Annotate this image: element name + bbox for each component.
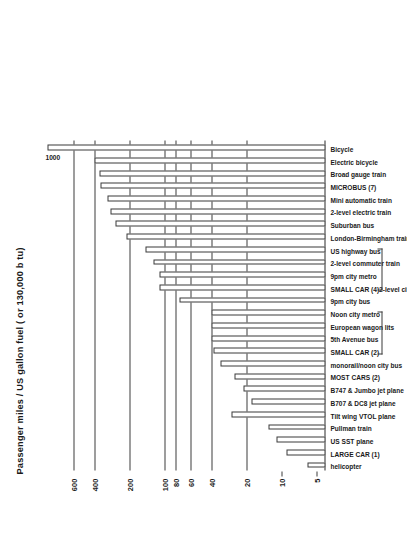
bar[interactable] — [251, 398, 325, 404]
category-label: Suburban bus — [330, 221, 374, 228]
axis-tick-label-80: 80 — [171, 478, 180, 504]
bar[interactable] — [211, 309, 325, 315]
category-label: 9pm city metro — [330, 272, 376, 279]
category-label: Mini automatic train — [330, 196, 391, 203]
bar[interactable] — [211, 335, 325, 341]
bar[interactable] — [220, 360, 325, 366]
category-label: US highway bus — [330, 247, 380, 254]
y-axis-title: Passenger miles / US gallon fuel ( or 13… — [14, 247, 24, 474]
axis-tick-label-200: 200 — [125, 478, 134, 504]
bar[interactable] — [126, 233, 325, 239]
axis-baseline — [324, 140, 325, 470]
category-label: European wagon lits — [330, 323, 394, 330]
bar[interactable] — [307, 462, 325, 468]
category-label: Pullman train — [330, 424, 371, 431]
category-label: Bicycle — [330, 145, 353, 152]
category-label: MOST CARS (2) — [330, 373, 379, 380]
bar[interactable] — [243, 385, 325, 391]
bar[interactable] — [99, 170, 325, 176]
axis-tick-label-20: 20 — [242, 478, 251, 504]
category-label: monorail/noon city bus — [330, 361, 402, 368]
gridline-600 — [73, 140, 74, 470]
grouping-bracket — [377, 311, 382, 354]
bar[interactable] — [276, 436, 325, 442]
category-label: SMALL CAR (4)2-level city bus — [330, 285, 407, 292]
category-label: 9pm city bus — [330, 297, 370, 304]
chart-stage: Passenger miles / US gallon fuel ( or 13… — [0, 0, 407, 548]
category-label: B747 & Jumbo jet plane — [330, 386, 403, 393]
category-label: US SST plane — [330, 437, 373, 444]
bar[interactable] — [211, 322, 325, 328]
category-label: helicopter — [330, 462, 361, 469]
bar[interactable] — [100, 182, 325, 188]
gridline-80 — [175, 140, 176, 470]
bar[interactable] — [115, 220, 325, 226]
gridline-60 — [190, 140, 191, 470]
bar-value-label: 1000 — [45, 153, 60, 160]
category-label: Tilt wing VTOL plane — [330, 412, 395, 419]
bar[interactable] — [286, 449, 325, 455]
axis-tick-label-400: 400 — [90, 478, 99, 504]
category-label: B707 & DC8 jet plane — [330, 399, 395, 406]
bar[interactable] — [47, 144, 325, 150]
axis-tick-label-600: 600 — [69, 478, 78, 504]
bar[interactable] — [213, 347, 325, 353]
bar[interactable] — [231, 411, 325, 417]
category-label: LARGE CAR (1) — [330, 450, 379, 457]
gridline-20 — [246, 140, 247, 470]
gridline-40 — [211, 140, 212, 470]
category-label: Broad gauge train — [330, 170, 386, 177]
bar[interactable] — [110, 208, 325, 214]
plot-area: Passenger miles / US gallon fuel ( or 13… — [40, 140, 325, 470]
category-label: 5th Avenue bus — [330, 335, 378, 342]
axis-tick-label-60: 60 — [186, 478, 195, 504]
grouping-bracket — [377, 248, 382, 291]
bar[interactable] — [268, 424, 325, 430]
bar[interactable] — [107, 195, 325, 201]
category-label: London-Birmingham train — [330, 234, 407, 241]
gridline-400 — [94, 140, 95, 470]
axis-tick-10 — [281, 471, 282, 476]
gridline-200 — [129, 140, 130, 470]
axis-tick-label-5: 5 — [312, 478, 321, 504]
bar[interactable] — [153, 259, 325, 265]
bar[interactable] — [159, 271, 325, 277]
category-label: MICROBUS (7) — [330, 183, 376, 190]
figure-caption: Fig. 5 Energy efficiency of various pass… — [378, 540, 401, 548]
category-label: 2-level electric train — [330, 208, 391, 215]
axis-tick-label-100: 100 — [160, 478, 169, 504]
category-label: Noon city metro — [330, 310, 379, 317]
gridline-100 — [164, 140, 165, 470]
bar[interactable] — [234, 373, 325, 379]
axis-tick-label-40: 40 — [207, 478, 216, 504]
bar[interactable] — [145, 246, 325, 252]
bar[interactable] — [179, 297, 325, 303]
category-label: Electric bicycle — [330, 158, 377, 165]
axis-tick-label-10: 10 — [277, 478, 286, 504]
bar[interactable] — [159, 284, 325, 290]
category-label: SMALL CAR (2) — [330, 348, 379, 355]
bar[interactable] — [94, 157, 325, 163]
axis-tick-5 — [316, 471, 317, 476]
category-label: 2-level commuter train — [330, 259, 399, 266]
